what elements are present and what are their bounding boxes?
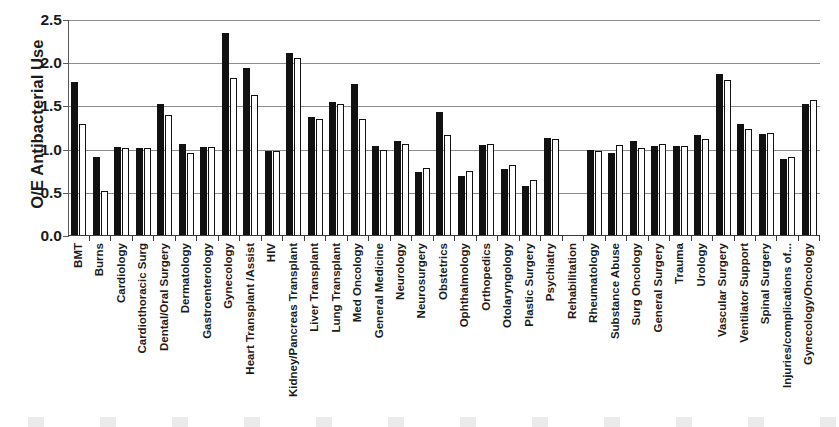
x-axis-category-labels: BMTBurnsCardiologyCardiothoracic SurgDen… bbox=[68, 241, 820, 411]
x-axis-category-label: Dermatology bbox=[180, 243, 192, 313]
bar bbox=[444, 135, 451, 236]
x-axis-label-cell: Trauma bbox=[670, 241, 691, 411]
bar-group bbox=[390, 20, 411, 236]
x-axis-category-label: BMT bbox=[73, 243, 85, 268]
x-axis-label-cell: Neurology bbox=[390, 241, 411, 411]
bar bbox=[243, 68, 250, 236]
x-axis-label-cell: Burns bbox=[89, 241, 110, 411]
bar bbox=[780, 159, 787, 236]
bar bbox=[114, 147, 121, 236]
bar-group bbox=[455, 20, 476, 236]
x-axis-category-label: Gastroenterology bbox=[202, 243, 214, 339]
bar-group bbox=[132, 20, 153, 236]
bar bbox=[122, 148, 129, 236]
bar bbox=[93, 157, 100, 236]
bar-group bbox=[798, 20, 819, 236]
x-axis-category-label: Orthopedics bbox=[481, 243, 493, 311]
bar-chart: O/E Antibacterial Use 2.52.01.51.00.50.0… bbox=[0, 0, 839, 427]
x-axis-label-cell: Ventilator Support bbox=[734, 241, 755, 411]
x-axis-category-label: Cardiology bbox=[116, 243, 128, 303]
bar-group bbox=[68, 20, 89, 236]
bar-group bbox=[261, 20, 282, 236]
bar bbox=[587, 150, 594, 236]
x-axis-label-cell: Kidney/Pancreas Transplant bbox=[283, 241, 304, 411]
x-axis-label-cell: Spinal Surgery bbox=[756, 241, 777, 411]
bar-group bbox=[541, 20, 562, 236]
x-axis-category-label: Liver Transplant bbox=[309, 243, 321, 332]
bar-group bbox=[111, 20, 132, 236]
bar bbox=[616, 145, 623, 236]
x-axis-category-label: HIV bbox=[266, 243, 278, 262]
x-axis-label-cell: Neurosurgery bbox=[412, 241, 433, 411]
x-axis-category-label: General Surgery bbox=[653, 243, 665, 332]
bar bbox=[187, 153, 194, 236]
x-axis-label-cell: Dermatology bbox=[175, 241, 196, 411]
bar-group bbox=[175, 20, 196, 236]
bar-group bbox=[218, 20, 239, 236]
bar bbox=[802, 104, 809, 236]
y-axis-tick-label: 1.5 bbox=[18, 98, 62, 114]
bar-group bbox=[326, 20, 347, 236]
x-axis-category-label: Plastic Surgery bbox=[524, 243, 536, 327]
bar bbox=[179, 144, 186, 236]
bar bbox=[673, 146, 680, 236]
bar bbox=[552, 139, 559, 236]
bar bbox=[165, 115, 172, 236]
bar bbox=[544, 138, 551, 236]
bar-group bbox=[369, 20, 390, 236]
x-axis-label-cell: Gastroenterology bbox=[197, 241, 218, 411]
bar-group bbox=[756, 20, 777, 236]
bar bbox=[423, 168, 430, 236]
x-axis-category-label: Heart Transplant /Assist bbox=[245, 243, 257, 375]
y-axis-tick-label: 0.5 bbox=[18, 185, 62, 201]
bar bbox=[294, 58, 301, 236]
bar bbox=[337, 104, 344, 236]
y-axis-tick-label: 2.5 bbox=[18, 12, 62, 28]
bar-group bbox=[562, 20, 583, 236]
bar bbox=[724, 80, 731, 236]
x-axis-label-cell: General Surgery bbox=[648, 241, 669, 411]
y-axis-tick-label: 2.0 bbox=[18, 55, 62, 71]
bar bbox=[415, 172, 422, 236]
bar-group bbox=[89, 20, 110, 236]
y-axis-tick-labels: 2.52.01.51.00.50.0 bbox=[18, 0, 62, 427]
x-axis-label-cell: Psychiatry bbox=[541, 241, 562, 411]
bar bbox=[136, 148, 143, 236]
x-axis-label-cell: Rheumatology bbox=[584, 241, 605, 411]
bar bbox=[230, 78, 237, 236]
bar bbox=[759, 134, 766, 236]
x-axis-category-label: Injuries/complications of... bbox=[782, 243, 794, 388]
x-axis-category-label: Ophthalmology bbox=[460, 243, 472, 327]
x-axis-category-label: Vascular Surgery bbox=[718, 243, 730, 337]
bar-group bbox=[498, 20, 519, 236]
x-axis-category-label: Otolaryngology bbox=[503, 243, 515, 328]
x-axis-label-cell: Gynecology/Oncology bbox=[798, 241, 819, 411]
y-axis-tick-label: 1.0 bbox=[18, 142, 62, 158]
bar-group bbox=[713, 20, 734, 236]
x-axis-category-label: Spinal Surgery bbox=[760, 243, 772, 324]
bar-group bbox=[283, 20, 304, 236]
bar bbox=[329, 102, 336, 236]
x-axis-label-cell: Substance Abuse bbox=[605, 241, 626, 411]
bar-group bbox=[476, 20, 497, 236]
x-axis-label-cell: Dental/Oral Surgery bbox=[154, 241, 175, 411]
bar bbox=[200, 147, 207, 236]
bar bbox=[501, 169, 508, 236]
x-axis-label-cell: Cardiothoracic Surg bbox=[132, 241, 153, 411]
bar-group bbox=[777, 20, 798, 236]
x-axis-label-cell: Med Oncology bbox=[347, 241, 368, 411]
x-axis-label-cell: HIV bbox=[261, 241, 282, 411]
bar bbox=[509, 165, 516, 236]
bar bbox=[436, 112, 443, 236]
x-axis-category-label: Rheumatology bbox=[589, 243, 601, 323]
x-axis-category-label: Urology bbox=[696, 243, 708, 286]
bar bbox=[394, 141, 401, 236]
bar-group bbox=[519, 20, 540, 236]
x-axis-category-label: Psychiatry bbox=[546, 243, 558, 301]
bar bbox=[595, 151, 602, 236]
x-axis-label-cell: Orthopedics bbox=[476, 241, 497, 411]
x-axis-label-cell: Injuries/complications of... bbox=[777, 241, 798, 411]
bar bbox=[659, 144, 666, 236]
bar bbox=[737, 124, 744, 236]
bar-series-container bbox=[68, 20, 820, 236]
